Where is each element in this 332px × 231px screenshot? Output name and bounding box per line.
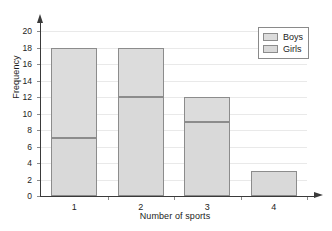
legend-swatch-girls [263, 45, 278, 53]
legend-item: Boys [263, 31, 303, 43]
bar-segment-girls [51, 138, 97, 196]
legend-swatch-boys [263, 33, 278, 41]
bar-segment-boys [184, 97, 230, 122]
y-axis-tick-label: 6 [10, 143, 32, 152]
stacked-bar-chart: 024681012141618201234 Frequency Number o… [0, 0, 332, 231]
bar-group [184, 31, 230, 196]
y-axis-tick-label: 0 [10, 192, 32, 201]
legend-label: Girls [283, 45, 302, 54]
bar-segment-girls [251, 171, 297, 196]
y-axis-arrow-icon [37, 14, 43, 23]
legend: BoysGirls [258, 27, 309, 59]
bar-segment-girls [184, 122, 230, 196]
bar-segment-boys [118, 48, 164, 98]
y-axis-tick-label: 2 [10, 176, 32, 185]
legend-item: Girls [263, 43, 303, 55]
y-axis-title: Frequency [11, 27, 21, 127]
x-axis-arrow-icon [314, 192, 323, 198]
bar-segment-girls [118, 97, 164, 196]
y-axis-line [40, 22, 41, 197]
bar-group [51, 31, 97, 196]
legend-label: Boys [283, 33, 303, 42]
bar-group [118, 31, 164, 196]
bar-segment-boys [51, 48, 97, 139]
y-axis-tick-label: 4 [10, 159, 32, 168]
x-axis-title: Number of sports [40, 211, 310, 221]
y-axis-tick-label: 8 [10, 126, 32, 135]
x-axis-line [40, 196, 315, 197]
